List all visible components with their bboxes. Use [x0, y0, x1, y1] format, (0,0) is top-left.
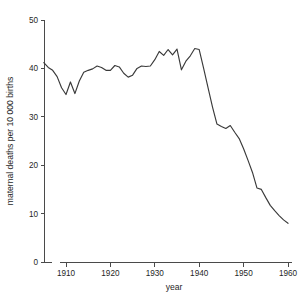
x-tick-label-1960: 1960 — [279, 269, 298, 278]
maternal-mortality-chart: 01020304050 191019201930194019501960 yea… — [0, 0, 299, 300]
y-tick-label-10: 10 — [29, 210, 39, 219]
y-tick-label-0: 0 — [33, 258, 38, 267]
y-axis-title: maternal deaths per 10 000 births — [5, 77, 15, 206]
x-tick-label-1910: 1910 — [57, 269, 76, 278]
y-tick-label-30: 30 — [29, 113, 39, 122]
y-tick-label-40: 40 — [29, 64, 39, 73]
x-tick-label-1940: 1940 — [190, 269, 209, 278]
y-tick-label-50: 50 — [29, 16, 39, 25]
y-tick-label-20: 20 — [29, 161, 39, 170]
x-tick-label-1920: 1920 — [101, 269, 120, 278]
chart-plot-area: 01020304050 191019201930194019501960 yea… — [0, 0, 299, 300]
x-axis-title: year — [166, 282, 183, 292]
x-tick-label-1950: 1950 — [234, 269, 253, 278]
x-tick-label-1930: 1930 — [146, 269, 165, 278]
